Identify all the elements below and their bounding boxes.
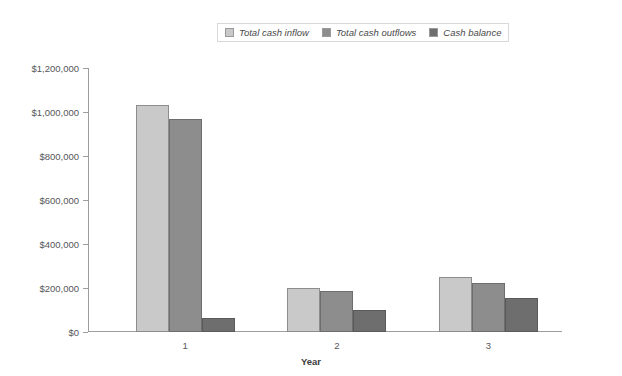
legend-item-total-cash-outflows[interactable]: Total cash outflows (322, 28, 416, 38)
legend-swatch-icon (429, 28, 438, 37)
y-axis-tick (83, 112, 88, 113)
bar-group (136, 68, 235, 332)
bar-chart: Total cash inflow Total cash outflows Ca… (0, 0, 622, 376)
y-axis-tick (83, 200, 88, 201)
y-axis-tick-label: $600,000 (39, 195, 79, 206)
legend-swatch-icon (322, 28, 331, 37)
y-axis-tick-label: $400,000 (39, 239, 79, 250)
y-axis-tick (83, 332, 88, 333)
y-axis-tick (83, 68, 88, 69)
y-axis-tick-label: $1,000,000 (31, 107, 79, 118)
bar[interactable] (136, 105, 169, 332)
y-axis-tick-label: $200,000 (39, 283, 79, 294)
chart-legend: Total cash inflow Total cash outflows Ca… (217, 23, 509, 42)
bar-group (439, 68, 538, 332)
y-axis-tick (83, 244, 88, 245)
y-axis-tick-label: $0 (68, 327, 79, 338)
y-axis-tick (83, 156, 88, 157)
y-axis-tick (83, 288, 88, 289)
x-axis-tick-label: 1 (183, 340, 188, 351)
legend-swatch-icon (225, 28, 234, 37)
bar[interactable] (439, 277, 472, 332)
bar[interactable] (202, 318, 235, 332)
legend-item-cash-balance[interactable]: Cash balance (429, 28, 501, 38)
bar[interactable] (287, 288, 320, 332)
y-axis-tick-label: $800,000 (39, 151, 79, 162)
bar-group (287, 68, 386, 332)
legend-item-label: Cash balance (443, 28, 501, 38)
bar[interactable] (353, 310, 386, 332)
bar[interactable] (472, 283, 505, 333)
bar[interactable] (505, 298, 538, 332)
y-axis-tick-label: $1,200,000 (31, 63, 79, 74)
x-axis-tick-label: 3 (486, 340, 491, 351)
bar[interactable] (169, 119, 202, 332)
y-axis-labels: $0$200,000$400,000$600,000$800,000$1,000… (0, 68, 79, 332)
y-axis-line (88, 68, 89, 332)
legend-item-total-cash-inflow[interactable]: Total cash inflow (225, 28, 309, 38)
x-axis-tick-label: 2 (334, 340, 339, 351)
plot-area (88, 68, 562, 332)
bar[interactable] (320, 291, 353, 332)
legend-item-label: Total cash inflow (239, 28, 309, 38)
x-axis-title: Year (0, 356, 622, 367)
legend-item-label: Total cash outflows (336, 28, 416, 38)
